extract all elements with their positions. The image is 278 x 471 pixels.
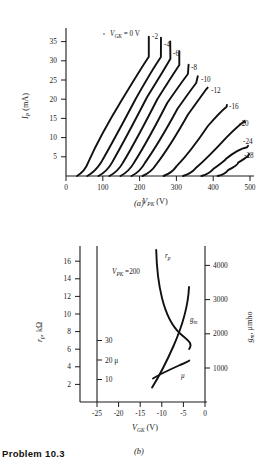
panel-a-y-axis-title: IP (mA)	[21, 93, 31, 120]
panel-a-x-ticks	[66, 176, 250, 181]
right-tick-label: 4000	[213, 261, 228, 270]
curve-label-rp: rp	[165, 252, 171, 261]
left-axis-title-unit: , kΩ	[35, 322, 44, 336]
panel-b-axes	[80, 246, 207, 402]
panel-b-vpk-annotation: VPK =200	[112, 268, 140, 277]
panel-b-x-ticks	[97, 402, 205, 407]
mu-tick-label: 20 μ	[105, 356, 118, 365]
x-tick-label: 300	[171, 183, 182, 192]
curve-label: -8	[191, 64, 197, 72]
panel-b-right-tick-labels: 1000 2000 3000 4000	[213, 261, 228, 373]
y-tick-label: 35	[50, 37, 58, 46]
panel-b-curves	[152, 250, 190, 388]
x-tick-label: -5	[180, 409, 186, 418]
problem-label: Problem 10.3	[2, 448, 65, 459]
y-tick-label: 30	[50, 56, 58, 65]
panel-a-x-tick-labels: 0 100 200 300 400 500	[64, 183, 256, 192]
panel-a-svg: 0 100 200 300 400 500 5 10 15 20	[0, 8, 278, 220]
x-axis-title-unit: (V)	[147, 423, 159, 432]
y-tick-label: 25	[50, 76, 58, 85]
annotation-value: =200	[125, 268, 140, 276]
curve-label: -20	[239, 120, 249, 128]
y-axis-title-unit: (mA)	[21, 93, 30, 111]
left-tick-label: 2	[67, 380, 71, 389]
curve-label: -24	[243, 138, 253, 146]
right-tick-label: 1000	[213, 364, 228, 373]
panel-b-x-tick-labels: -25 -20 -15 -10 -5 0	[92, 409, 207, 418]
left-tick-label: 14	[64, 274, 72, 283]
svg-text:gm, μmho: gm, μmho	[245, 311, 255, 342]
mu-tick-label: 10	[105, 375, 113, 384]
panel-a-y-tick-labels: 5 10 15 20 25 30 35	[50, 37, 58, 161]
curve-label: -2	[152, 33, 158, 41]
left-tick-label: 4	[67, 362, 71, 371]
panel-a-caption: (a)	[0, 198, 278, 208]
panel-a-curves	[77, 37, 249, 176]
annotation-value: = 0 V	[124, 30, 141, 38]
curve-label: -12	[211, 87, 221, 95]
panel-b-mu-ticks	[97, 341, 102, 380]
x-tick-label: 200	[134, 183, 145, 192]
panel-a-curve-labels: -2 -4 -6 -8 -10 -12 -16 -20 -24 -28	[152, 33, 254, 160]
panel-b-left-axis-title: rp, kΩ	[35, 322, 45, 342]
y-tick-label: 15	[50, 114, 58, 123]
x-tick-label: 100	[97, 183, 108, 192]
x-tick-label: -15	[135, 409, 145, 418]
y-tick-label: 20	[50, 95, 58, 104]
panel-a-y-ticks	[61, 42, 66, 157]
curve-label-mu: μ	[181, 372, 185, 380]
curve-vgk-10	[132, 76, 198, 176]
right-tick-label: 2000	[213, 329, 228, 338]
panel-b-left-ticks	[75, 261, 80, 384]
x-tick-label: 0	[64, 183, 68, 192]
curve-label: -6	[173, 50, 179, 58]
annotation-dot	[103, 33, 104, 34]
panel-b-right-axis-title: gm, μmho	[245, 311, 255, 342]
right-tick-label: 3000	[213, 295, 228, 304]
x-tick-label: 400	[208, 183, 219, 192]
curve-label-gm: gm	[190, 316, 198, 325]
panel-b-mu-tick-labels: 10 20 μ 30	[105, 336, 118, 384]
panel-b-left-tick-labels: 2 4 6 8 10 12 14 16	[64, 257, 72, 389]
panel-b-right-ticks	[205, 265, 210, 368]
panel-a-plate-characteristics: 0 100 200 300 400 500 5 10 15 20	[0, 8, 278, 220]
y-tick-label: 10	[50, 133, 58, 142]
panel-b-x-axis-title: VGK (V)	[132, 423, 158, 433]
left-tick-label: 8	[67, 327, 71, 336]
panel-b-small-signal-parameters: -25 -20 -15 -10 -5 0 2 4 6	[0, 232, 278, 442]
curve-label: -16	[229, 103, 239, 111]
left-tick-label: 10	[64, 310, 72, 319]
panel-b-curve-labels: rp gm μ	[165, 252, 198, 380]
x-tick-label: -20	[114, 409, 124, 418]
curve-label: -4	[164, 41, 170, 49]
left-tick-label: 12	[64, 292, 72, 301]
curve-vgk-8	[121, 65, 189, 176]
svg-text:rp, kΩ: rp, kΩ	[35, 322, 45, 342]
x-tick-label: 500	[244, 183, 255, 192]
panel-a-vgk-annotation: VGK = 0 V	[110, 30, 141, 39]
y-tick-label: 5	[53, 152, 57, 161]
left-tick-label: 16	[64, 257, 72, 266]
x-tick-label: -25	[92, 409, 102, 418]
x-tick-label: 0	[203, 409, 207, 418]
x-tick-label: -10	[157, 409, 167, 418]
curve-vgk-4	[98, 42, 170, 177]
left-tick-label: 6	[67, 345, 71, 354]
svg-text:IP (mA): IP (mA)	[21, 93, 31, 120]
right-axis-title-unit: , μmho	[245, 311, 254, 334]
curve-vgk-6	[109, 51, 179, 176]
figure-problem-10-3: 0 100 200 300 400 500 5 10 15 20	[0, 0, 278, 471]
curve-label: -10	[201, 76, 211, 84]
mu-tick-label: 30	[105, 336, 113, 345]
panel-b-svg: -25 -20 -15 -10 -5 0 2 4 6	[0, 232, 278, 442]
curve-label: -28	[244, 152, 254, 160]
curve-rp	[156, 250, 190, 349]
